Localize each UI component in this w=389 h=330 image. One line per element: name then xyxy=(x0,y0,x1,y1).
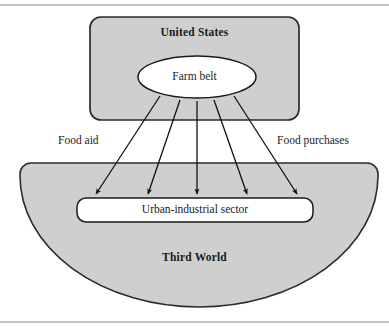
figure-root: United States Farm belt Food aid Food pu… xyxy=(0,0,389,330)
node-label-third-world: Third World xyxy=(0,252,389,264)
edge-label-food-purchases: Food purchases xyxy=(277,135,349,147)
node-third-world-shape xyxy=(20,163,378,307)
edge-label-food-aid: Food aid xyxy=(58,135,99,147)
node-label-farm-belt: Farm belt xyxy=(0,71,389,83)
diagram-canvas xyxy=(0,0,389,330)
node-label-united-states: United States xyxy=(0,27,389,39)
node-label-urban-industrial-sector: Urban-industrial sector xyxy=(77,204,313,216)
